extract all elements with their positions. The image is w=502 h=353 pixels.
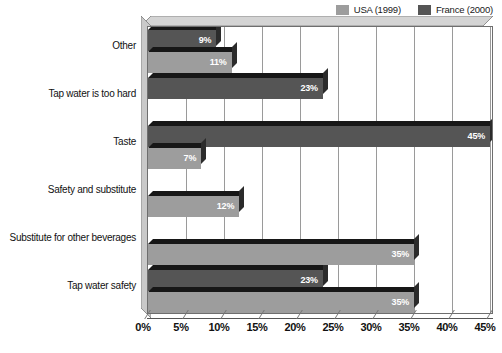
x-axis-tick-label: 0% [135, 322, 150, 333]
legend-swatch-usa [336, 5, 349, 15]
y-axis-label: Taste [113, 137, 136, 147]
y-axis-label: Tap water is too hard [48, 89, 136, 99]
bar-side-face [216, 26, 221, 46]
bar-side-face [323, 68, 328, 94]
legend-label-france: France (2000) [436, 5, 493, 15]
bar-side-face [490, 116, 493, 142]
bar: 23% [148, 78, 323, 99]
bar-value-label: 35% [392, 250, 414, 259]
bar-front-face: 7% [148, 148, 201, 169]
y-axis-label: Tap water safety [67, 281, 136, 291]
bar: 7% [148, 148, 201, 169]
bar-front-face: 11% [148, 52, 232, 73]
gridline [376, 27, 377, 313]
bar-side-face [232, 42, 237, 68]
x-axis-tick-label: 25% [322, 322, 343, 333]
bar: 12% [148, 196, 239, 217]
plot-frame: 9%23%45%23%11%7%12%35%35% [141, 16, 493, 318]
plot-top-bevel [141, 16, 493, 26]
x-axis-tick-label: 35% [398, 322, 419, 333]
bar-side-face [239, 186, 244, 212]
bar-value-label: 45% [468, 132, 490, 141]
gridline [490, 27, 491, 313]
legend-entry-france: France (2000) [418, 5, 493, 15]
gridline [414, 27, 415, 313]
bar-chart: USA (1999) France (2000) OtherTap water … [0, 0, 502, 353]
x-axis-tick-label: 40% [436, 322, 457, 333]
bar-side-face [414, 234, 419, 260]
chart-legend: USA (1999) France (2000) [336, 3, 493, 16]
x-axis-tick-label: 5% [173, 322, 188, 333]
y-axis-category-labels: OtherTap water is too hardTasteSafety an… [0, 22, 141, 310]
bar-value-label: 7% [184, 154, 202, 163]
bar-side-face [201, 138, 206, 164]
legend-label-usa: USA (1999) [354, 5, 401, 15]
y-axis-label: Other [112, 41, 136, 51]
x-axis-tick-label: 15% [246, 322, 267, 333]
x-axis: 0%5%10%15%20%25%30%35%40%45% [141, 310, 493, 353]
x-axis-tick-label: 45% [474, 322, 495, 333]
bar-value-label: 11% [210, 58, 232, 67]
bar: 11% [148, 52, 232, 73]
bar-value-label: 35% [392, 298, 414, 307]
bar-side-face [414, 282, 419, 308]
plot-area: 9%23%45%23%11%7%12%35%35% [147, 26, 493, 314]
bar-value-label: 23% [300, 84, 322, 93]
bar-value-label: 23% [300, 276, 322, 285]
bar: 35% [148, 244, 414, 265]
bar-front-face: 35% [148, 244, 414, 265]
legend-entry-usa: USA (1999) [336, 5, 401, 15]
x-axis-tick-label: 10% [208, 322, 229, 333]
legend-swatch-france [418, 5, 431, 15]
y-axis-label: Safety and substitute [48, 185, 136, 195]
gridline [338, 27, 339, 313]
x-axis-tick-label: 20% [284, 322, 305, 333]
bar-front-face: 23% [148, 78, 323, 99]
x-axis-tick-label: 30% [360, 322, 381, 333]
bar-front-face: 12% [148, 196, 239, 217]
bar-value-label: 12% [217, 202, 239, 211]
bar-value-label: 9% [199, 36, 217, 45]
gridline [452, 27, 453, 313]
x-axis-line [147, 318, 493, 319]
y-axis-label: Substitute for other beverages [10, 233, 136, 243]
